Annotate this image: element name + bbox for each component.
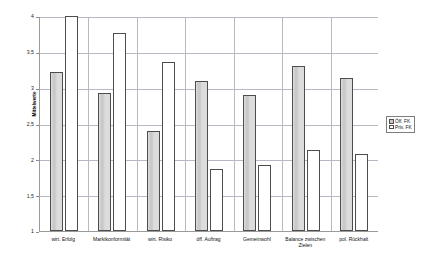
bar — [113, 33, 126, 231]
bar-chart: Mittelwerte 43,532,521,51 wirt. ErfolgMa… — [0, 0, 434, 270]
bar — [243, 95, 256, 231]
legend-item[interactable]: Priv. FK — [389, 125, 412, 130]
y-axis-tick-mark — [36, 232, 39, 233]
x-axis-tick-label: Balance zwischen Zielen — [281, 236, 329, 268]
bar — [147, 131, 160, 231]
y-axis-tick-label: 3 — [31, 86, 34, 91]
bar — [307, 150, 320, 231]
y-axis-tick-label: 2 — [31, 158, 34, 163]
y-axis-tick-label: 2,5 — [27, 122, 34, 127]
plot-area — [39, 17, 378, 232]
bar — [355, 154, 368, 231]
bar-group — [330, 17, 378, 231]
y-axis-tick-label: 1 — [31, 229, 34, 234]
x-axis-tick-label: wirt. Erfolg — [39, 236, 87, 268]
bar-group — [40, 17, 88, 231]
legend-item-label: Öff. FK — [395, 119, 410, 124]
x-axis-tick-label: öff. Auftrag — [184, 236, 232, 268]
bar — [162, 62, 175, 231]
bar — [292, 66, 305, 231]
bar — [340, 78, 353, 231]
bar — [210, 169, 223, 231]
y-axis-tick-label: 4 — [31, 14, 34, 19]
bars-layer — [40, 17, 378, 231]
bar-group — [281, 17, 329, 231]
x-axis-tick-label: Gemeinwohl — [233, 236, 281, 268]
bar-group — [137, 17, 185, 231]
x-axis-tick-label: Marktkonformität — [87, 236, 135, 268]
bar — [50, 72, 63, 231]
y-axis-tick-label: 3,5 — [27, 50, 34, 55]
legend-swatch-icon — [389, 119, 394, 124]
x-axis-tick-label: pol. Rückhalt — [330, 236, 378, 268]
bar-group — [233, 17, 281, 231]
chart-legend: Öff. FKPriv. FK — [386, 116, 415, 133]
bar — [258, 165, 271, 231]
x-axis-tick-label: wirt. Risiko — [136, 236, 184, 268]
bar — [98, 93, 111, 231]
bar — [195, 81, 208, 232]
legend-item-label: Priv. FK — [395, 125, 412, 130]
y-axis-tick-label: 1,5 — [27, 194, 34, 199]
x-axis-tick-labels: wirt. ErfolgMarktkonformitätwirt. Risiko… — [39, 236, 378, 268]
legend-item[interactable]: Öff. FK — [389, 119, 412, 124]
bar-group — [185, 17, 233, 231]
legend-swatch-icon — [389, 125, 394, 130]
bar-group — [88, 17, 136, 231]
y-axis-tick-labels: 43,532,521,51 — [0, 0, 40, 270]
bar — [65, 16, 78, 231]
